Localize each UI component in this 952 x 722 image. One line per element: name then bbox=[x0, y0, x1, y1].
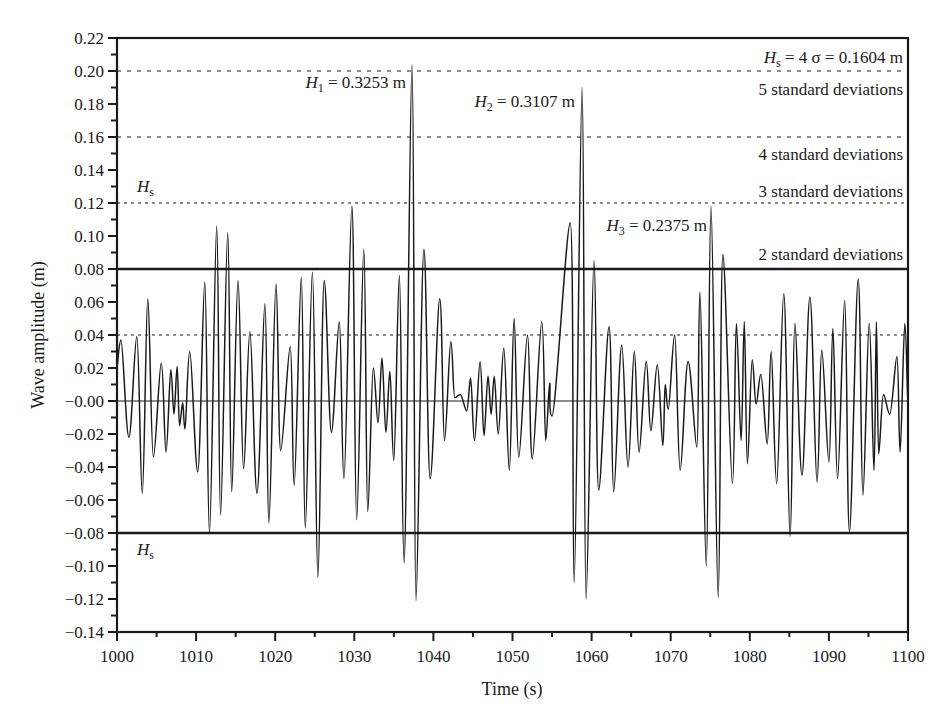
y-tick-label: −0.10 bbox=[65, 557, 104, 576]
y-tick-label: 0.16 bbox=[74, 128, 104, 147]
y-tick-label: −0.00 bbox=[65, 392, 104, 411]
y-tick-label: −0.06 bbox=[65, 491, 104, 510]
h1-annotation: H1 = 0.3253 m bbox=[304, 73, 406, 95]
x-tick-label: 1010 bbox=[179, 647, 213, 666]
y-tick-label: 0.12 bbox=[74, 194, 104, 213]
std-label-5: 5 standard deviations bbox=[759, 80, 903, 99]
wave-chart: 0.220.200.180.160.140.120.100.080.060.04… bbox=[0, 0, 952, 722]
y-tick-label: 0.18 bbox=[74, 95, 104, 114]
y-tick-label: 0.08 bbox=[74, 260, 104, 279]
std-label-4: 4 standard deviations bbox=[759, 145, 903, 164]
hs-definition-annotation: Hs = 4 σ = 0.1604 m bbox=[763, 48, 903, 70]
h3-annotation: H3 = 0.2375 m bbox=[605, 216, 707, 238]
y-tick-label: 0.02 bbox=[74, 359, 104, 378]
x-tick-label: 1040 bbox=[416, 647, 450, 666]
x-tick-label: 1060 bbox=[575, 647, 609, 666]
y-tick-label: 0.04 bbox=[74, 326, 104, 345]
x-tick-label: 1080 bbox=[733, 647, 767, 666]
x-axis-title: Time (s) bbox=[482, 679, 543, 700]
y-tick-label: 0.20 bbox=[74, 62, 104, 81]
x-axis-ticks: 1000101010201030104010501060107010801090… bbox=[100, 632, 925, 666]
y-tick-label: 0.22 bbox=[74, 29, 104, 48]
y-tick-label: 0.06 bbox=[74, 293, 104, 312]
x-tick-label: 1070 bbox=[654, 647, 688, 666]
std-label-2: 2 standard deviations bbox=[759, 245, 903, 264]
reference-lines bbox=[117, 71, 908, 533]
y-tick-label: 0.10 bbox=[74, 227, 104, 246]
y-tick-label: −0.04 bbox=[65, 458, 105, 477]
h2-annotation: H2 = 0.3107 m bbox=[473, 92, 575, 114]
hs-lower-annotation: Hs bbox=[136, 540, 154, 562]
x-tick-label: 1050 bbox=[496, 647, 530, 666]
y-tick-label: −0.14 bbox=[65, 623, 105, 642]
y-tick-label: −0.12 bbox=[65, 590, 104, 609]
x-tick-label: 1020 bbox=[258, 647, 292, 666]
x-tick-label: 1030 bbox=[337, 647, 371, 666]
x-tick-label: 1100 bbox=[891, 647, 924, 666]
y-tick-label: −0.02 bbox=[65, 425, 104, 444]
hs-upper-annotation: Hs bbox=[136, 177, 154, 199]
std-label-3: 3 standard deviations bbox=[759, 182, 903, 201]
y-tick-label: −0.08 bbox=[65, 524, 104, 543]
x-tick-label: 1000 bbox=[100, 647, 134, 666]
x-tick-label: 1090 bbox=[812, 647, 846, 666]
y-tick-label: 0.14 bbox=[74, 161, 104, 180]
y-axis-title: Wave amplitude (m) bbox=[28, 261, 49, 409]
y-axis-ticks: 0.220.200.180.160.140.120.100.080.060.04… bbox=[65, 29, 117, 642]
